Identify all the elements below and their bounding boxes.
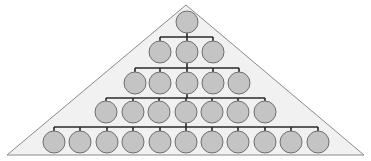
node-level-1-1 — [176, 11, 198, 33]
node-level-4-7 — [254, 101, 276, 123]
node-level-5-4 — [122, 131, 144, 153]
node-level-5-11 — [307, 131, 329, 153]
node-level-2-1 — [149, 41, 171, 63]
hierarchy-pyramid-diagram — [0, 0, 371, 161]
node-level-4-3 — [148, 101, 170, 123]
node-level-4-4 — [175, 101, 197, 123]
node-level-3-5 — [228, 72, 250, 94]
node-level-3-4 — [202, 72, 224, 94]
node-level-4-6 — [227, 101, 249, 123]
node-level-3-1 — [124, 72, 146, 94]
node-level-4-5 — [201, 101, 223, 123]
node-level-5-6 — [175, 131, 197, 153]
node-level-3-3 — [176, 72, 198, 94]
node-level-5-7 — [201, 131, 223, 153]
node-level-2-2 — [176, 41, 198, 63]
node-level-5-10 — [280, 131, 302, 153]
node-level-5-1 — [43, 131, 65, 153]
node-level-5-8 — [227, 131, 249, 153]
node-level-5-9 — [254, 131, 276, 153]
node-level-4-2 — [122, 101, 144, 123]
node-level-5-3 — [96, 131, 118, 153]
node-level-5-2 — [69, 131, 91, 153]
node-level-2-3 — [202, 41, 224, 63]
node-level-3-2 — [149, 72, 171, 94]
node-level-5-5 — [149, 131, 171, 153]
node-level-4-1 — [95, 101, 117, 123]
